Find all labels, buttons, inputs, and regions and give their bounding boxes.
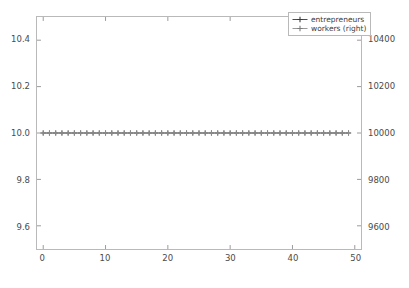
plot-canvas: [37, 17, 361, 249]
y-axis-right-labels: 96009800100001020010400: [368, 16, 409, 250]
x-tick-label: 40: [288, 254, 299, 263]
y-tick-label-left: 10.0: [4, 129, 30, 138]
x-tick-label: 30: [225, 254, 236, 263]
y-tick-label-right: 10200: [368, 82, 395, 91]
legend-item-workers[interactable]: workers (right): [292, 24, 366, 33]
y-tick-label-right: 9800: [368, 176, 390, 185]
legend-label: workers (right): [311, 24, 366, 33]
x-axis-labels: 01020304050: [36, 254, 362, 270]
legend-marker-icon: [292, 15, 308, 24]
chart-figure: 9.69.810.010.210.4 960098001000010200104…: [0, 0, 409, 288]
chart-legend: entrepreneurs workers (right): [288, 12, 371, 36]
y-tick-label-right: 10400: [368, 35, 395, 44]
y-tick-label-left: 10.4: [4, 35, 30, 44]
legend-label: entrepreneurs: [311, 15, 364, 24]
y-tick-label-left: 10.2: [4, 82, 30, 91]
x-tick-label: 20: [162, 254, 173, 263]
y-tick-label-right: 9600: [368, 222, 390, 231]
plot-area: [36, 16, 362, 250]
x-tick-label: 50: [350, 254, 361, 263]
y-tick-label-left: 9.6: [4, 222, 30, 231]
x-tick-label: 10: [100, 254, 111, 263]
legend-item-entrepreneurs[interactable]: entrepreneurs: [292, 15, 366, 24]
legend-marker-icon: [292, 24, 308, 33]
y-axis-left-labels: 9.69.810.010.210.4: [0, 16, 30, 250]
y-tick-label-right: 10000: [368, 129, 395, 138]
y-tick-label-left: 9.8: [4, 176, 30, 185]
x-tick-label: 0: [40, 254, 45, 263]
